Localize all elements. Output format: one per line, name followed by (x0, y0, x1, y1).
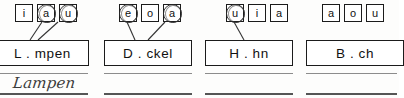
vowel-option-u[interactable]: u (59, 4, 77, 22)
vowel-option-a[interactable]: a (37, 4, 55, 22)
word-box-1[interactable]: L . mpen (0, 40, 89, 66)
vowel-option-a[interactable]: a (322, 4, 340, 22)
vowel-option-o[interactable]: o (141, 4, 159, 22)
vowel-letter: u (65, 7, 71, 18)
write-line-4[interactable] (306, 93, 397, 95)
vowel-letter: o (147, 7, 153, 18)
word-text: B . ch (336, 46, 374, 61)
vowel-letter: i (23, 7, 25, 18)
vowel-option-o[interactable]: o (344, 4, 362, 22)
word-text: H . hn (229, 46, 269, 61)
connector-lines-1 (0, 21, 110, 41)
vowel-choice-row-4: a o u (322, 4, 384, 22)
word-box-2[interactable]: D . ckel (104, 40, 192, 66)
vowel-option-e[interactable]: e (119, 4, 137, 22)
word-box-4[interactable]: B . ch (306, 40, 404, 66)
vowel-letter: u (232, 7, 238, 18)
connector-line (38, 22, 58, 40)
vowel-option-i[interactable]: i (15, 4, 33, 22)
vowel-letter: a (169, 7, 175, 18)
vowel-letter: a (328, 7, 334, 18)
exercise-group-4: a o u B . ch (298, 0, 399, 98)
connector-line (148, 22, 165, 40)
word-text: D . ckel (123, 46, 173, 61)
vowel-choice-row-1: i a u (15, 4, 77, 22)
vowel-letter: a (43, 7, 49, 18)
vowel-choice-row-3: u i a (226, 4, 288, 22)
write-line-3[interactable] (205, 93, 293, 95)
exercise-group-3: u i a H . hn (197, 0, 298, 98)
vowel-letter: i (256, 7, 258, 18)
connector-line (30, 22, 42, 40)
vowel-letter: a (276, 7, 282, 18)
connector-lines-3 (197, 21, 307, 41)
vowel-letter: u (372, 7, 378, 18)
vowel-option-i[interactable]: i (248, 4, 266, 22)
vowel-letter: e (125, 7, 131, 18)
write-line-1[interactable] (0, 93, 88, 95)
vowel-choice-row-2: e o a (119, 4, 181, 22)
word-box-3[interactable]: H . hn (205, 40, 293, 66)
exercise-group-2: e o a D . ckel (96, 0, 197, 98)
connector-line (234, 22, 244, 40)
connector-line (127, 22, 135, 40)
write-line-2[interactable] (104, 93, 192, 95)
vowel-option-u[interactable]: u (366, 4, 384, 22)
handwritten-answer-1: Lampen (12, 74, 76, 92)
vowel-option-u[interactable]: u (226, 4, 244, 22)
word-text: L . mpen (14, 46, 71, 61)
vowel-letter: o (350, 7, 356, 18)
vowel-option-a[interactable]: a (270, 4, 288, 22)
connector-lines-2 (96, 21, 206, 41)
vowel-option-a[interactable]: a (163, 4, 181, 22)
write-line-top-4 (306, 73, 397, 74)
exercise-group-1: i a u L . mpen Lampen (0, 0, 96, 98)
write-line-top-3 (205, 73, 293, 74)
write-line-top-2 (104, 73, 192, 74)
